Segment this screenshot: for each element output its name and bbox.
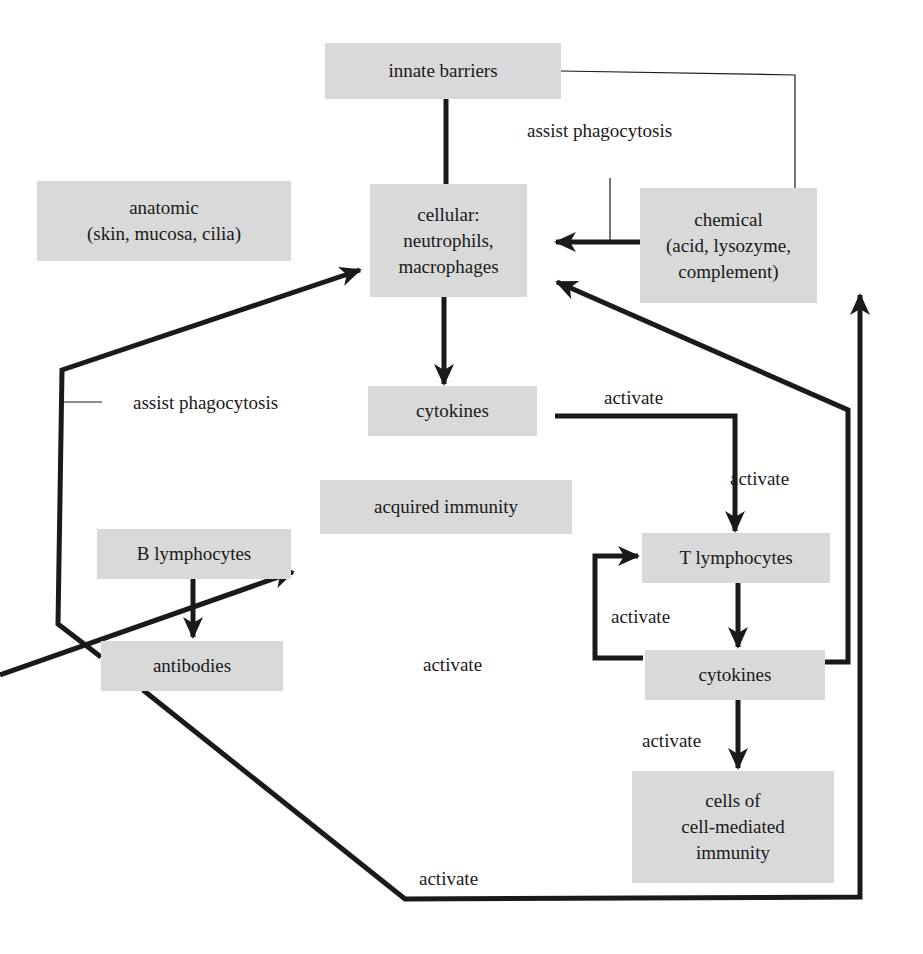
label-activate-loop: activate xyxy=(611,606,670,628)
node-cytokines-innate: cytokines xyxy=(368,386,537,436)
label-activate-b: activate xyxy=(423,654,482,676)
label-activate-cytokines-t: activate xyxy=(604,387,663,409)
node-antibodies: antibodies xyxy=(101,641,283,691)
node-b-lymphocytes: B lymphocytes xyxy=(97,529,291,579)
node-cytokines-acquired: cytokines xyxy=(645,650,825,700)
node-cell-mediated: cells of cell-mediated immunity xyxy=(632,771,834,883)
node-innate-barriers: innate barriers xyxy=(325,43,561,99)
node-chemical: chemical (acid, lysozyme, complement) xyxy=(640,188,817,303)
node-t-lymphocytes: T lymphocytes xyxy=(642,533,830,583)
node-acquired-immunity: acquired immunity xyxy=(320,480,572,534)
label-activate-cytokines-t-vertical: activate xyxy=(730,468,789,490)
node-cellular: cellular: neutrophils, macrophages xyxy=(370,184,527,297)
label-activate-cell-mediated: activate xyxy=(642,730,701,752)
label-activate-bottom: activate xyxy=(419,868,478,890)
label-assist-phagocytosis-left: assist phagocytosis xyxy=(133,392,278,414)
label-assist-phagocytosis-top: assist phagocytosis xyxy=(527,120,672,142)
node-anatomic: anatomic (skin, mucosa, cilia) xyxy=(37,181,291,261)
